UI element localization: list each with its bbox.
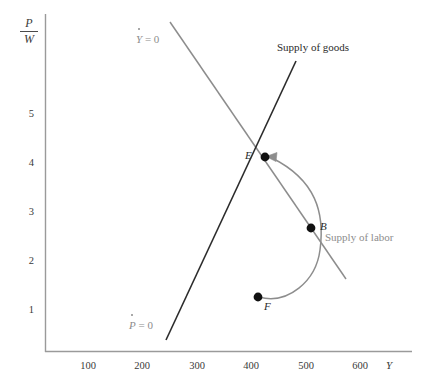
phase-diagram-figure bbox=[0, 0, 424, 389]
y-axis-label: P W bbox=[18, 17, 40, 45]
y-tick-1: 1 bbox=[16, 304, 34, 315]
y-dot-glyph: Y bbox=[136, 33, 142, 45]
x-tick-400: 400 bbox=[233, 360, 269, 371]
supply-of-labor-line bbox=[170, 22, 346, 279]
ydot-zero-equation: = 0 bbox=[145, 33, 159, 45]
pdot-zero-label: P = 0 bbox=[129, 319, 153, 331]
x-tick-600: 600 bbox=[342, 360, 378, 371]
point-f-label: F bbox=[264, 300, 271, 312]
supply-of-labor-label: Supply of labor bbox=[325, 231, 393, 243]
p-dot-glyph: P bbox=[129, 319, 136, 331]
supply-of-goods-label: Supply of goods bbox=[277, 41, 349, 53]
x-axis-label: Y bbox=[386, 359, 392, 371]
point-b-label: B bbox=[320, 220, 327, 232]
y-axis-label-numerator: P bbox=[18, 17, 40, 30]
x-tick-100: 100 bbox=[70, 360, 106, 371]
y-tick-5: 5 bbox=[16, 108, 34, 119]
y-tick-4: 4 bbox=[16, 157, 34, 168]
y-tick-3: 3 bbox=[16, 206, 34, 217]
point-e-label: E bbox=[245, 149, 252, 161]
pdot-zero-equation: = 0 bbox=[138, 319, 152, 331]
y-tick-2: 2 bbox=[16, 255, 34, 266]
x-tick-200: 200 bbox=[124, 360, 160, 371]
ydot-zero-label: Y = 0 bbox=[136, 33, 159, 45]
point-e-marker bbox=[261, 153, 270, 162]
y-axis-label-denominator: W bbox=[18, 33, 40, 46]
point-f-marker bbox=[254, 293, 263, 302]
x-tick-300: 300 bbox=[179, 360, 215, 371]
x-tick-500: 500 bbox=[288, 360, 324, 371]
point-b-marker bbox=[307, 224, 316, 233]
